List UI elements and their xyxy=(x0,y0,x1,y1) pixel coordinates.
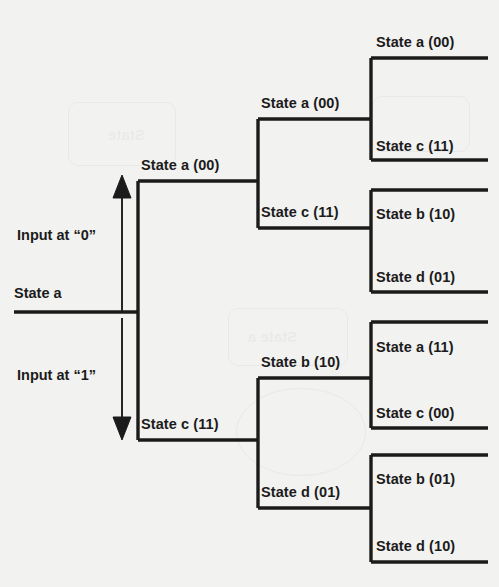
node-l2-1-code: (00) xyxy=(313,95,339,111)
node-l3-6-name: State c xyxy=(376,405,424,421)
node-l3-2-name: State c xyxy=(376,138,424,154)
input-1-label: Input at “1” xyxy=(17,368,96,383)
node-l3-8-name: State d xyxy=(376,538,425,554)
node-l1-top-code: (00) xyxy=(193,157,219,173)
input-0-label: Input at “0” xyxy=(17,228,96,243)
node-l2-4-code: (01) xyxy=(314,484,340,500)
node-l3-4-code: (01) xyxy=(429,269,455,285)
node-l2-2-code: (11) xyxy=(313,204,338,220)
node-l3-4: State d(01) xyxy=(376,270,455,285)
input-1-arrow xyxy=(113,318,131,440)
node-l2-3-code: (10) xyxy=(314,354,340,370)
node-l3-7-code: (01) xyxy=(429,471,455,487)
node-l2-4-name: State d xyxy=(261,484,310,500)
node-l2-4: State d(01) xyxy=(261,485,340,500)
node-l3-6: State c(00) xyxy=(376,406,454,421)
node-l3-3: State b(10) xyxy=(376,207,455,222)
node-l1-top: State a(00) xyxy=(141,158,219,173)
node-l1-bottom-code: (11) xyxy=(193,416,218,432)
node-l1-bottom: State c(11) xyxy=(141,417,219,432)
input-0-arrow xyxy=(113,175,131,312)
node-l3-4-name: State d xyxy=(376,269,425,285)
node-l3-3-name: State b xyxy=(376,206,425,222)
node-l3-6-code: (00) xyxy=(428,405,454,421)
diagram-canvas: State State a xyxy=(0,0,499,587)
node-l3-2: State c(11) xyxy=(376,139,454,154)
node-l3-5-name: State a xyxy=(376,339,424,355)
node-l1-bottom-name: State c xyxy=(141,416,189,432)
node-l2-2: State c(11) xyxy=(261,205,339,220)
node-l3-2-code: (11) xyxy=(428,138,453,154)
node-l3-1: State a(00) xyxy=(376,35,454,50)
node-l3-7-name: State b xyxy=(376,471,425,487)
node-l3-8-code: (10) xyxy=(429,538,455,554)
node-l3-1-code: (00) xyxy=(428,34,454,50)
root-state-label: State a xyxy=(14,286,62,301)
node-l2-2-name: State c xyxy=(261,204,309,220)
node-l3-1-name: State a xyxy=(376,34,424,50)
node-l3-5-code: (11) xyxy=(428,339,453,355)
node-l1-top-name: State a xyxy=(141,157,189,173)
node-l3-5: State a(11) xyxy=(376,340,454,355)
node-l2-3: State b(10) xyxy=(261,355,340,370)
node-l3-3-code: (10) xyxy=(429,206,455,222)
node-l3-7: State b(01) xyxy=(376,472,455,487)
node-l2-3-name: State b xyxy=(261,354,310,370)
node-l2-1: State a(00) xyxy=(261,96,339,111)
node-l2-1-name: State a xyxy=(261,95,309,111)
node-l3-8: State d(10) xyxy=(376,539,455,554)
tree-lines xyxy=(0,0,499,587)
